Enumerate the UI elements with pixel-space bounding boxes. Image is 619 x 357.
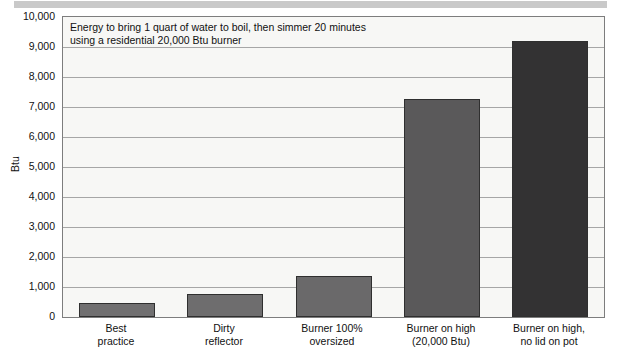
bar (404, 99, 480, 317)
x-axis-tick-label: Dirty reflector (170, 322, 278, 348)
plot-inner: Energy to bring 1 quart of water to boil… (63, 17, 604, 317)
x-axis-tick-label: Burner on high, no lid on pot (495, 322, 603, 348)
y-axis-tick-label: 7,000 (29, 101, 55, 112)
y-axis-tick-label: 8,000 (29, 71, 55, 82)
chart-figure: 10,0009,0008,0007,0006,0005,0004,0003,00… (0, 0, 619, 357)
plot-area: Energy to bring 1 quart of water to boil… (62, 16, 605, 318)
x-axis-category-labels: Best practiceDirty reflectorBurner 100% … (62, 322, 605, 357)
y-axis-tick-label: 9,000 (29, 41, 55, 52)
bar (79, 303, 155, 317)
y-axis-tick-label: 0 (49, 311, 55, 322)
y-axis-title: Btu (9, 144, 21, 184)
y-axis-tick-label: 4,000 (29, 191, 55, 202)
top-decorative-band (14, 1, 607, 8)
y-axis-tick-label: 1,000 (29, 281, 55, 292)
y-axis-tick-label: 3,000 (29, 221, 55, 232)
bar (296, 276, 372, 317)
bar (187, 294, 263, 317)
x-axis-tick-label: Best practice (62, 322, 170, 348)
y-axis-tick-label: 10,000 (23, 11, 55, 22)
bar (512, 41, 588, 317)
y-axis-tick-label: 6,000 (29, 131, 55, 142)
x-axis-tick-label: Burner on high (20,000 Btu) (387, 322, 495, 348)
y-axis-tick-label: 5,000 (29, 161, 55, 172)
chart-title: Energy to bring 1 quart of water to boil… (70, 21, 366, 46)
y-axis-tick-label: 2,000 (29, 251, 55, 262)
x-axis-tick-label: Burner 100% oversized (278, 322, 386, 348)
